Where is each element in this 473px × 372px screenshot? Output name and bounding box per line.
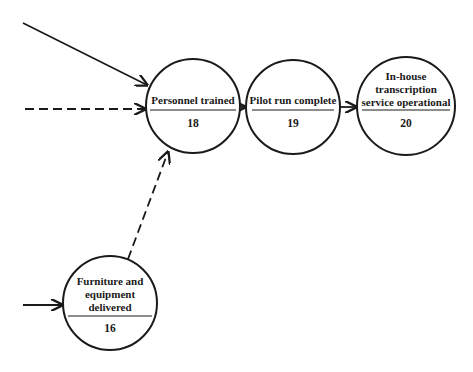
- node-furniture-equipment-delivered: Furniture and equipment delivered 16: [63, 256, 157, 350]
- node-label-line-1: Furniture and: [77, 275, 144, 287]
- node-number: 16: [104, 322, 116, 334]
- network-diagram: Personnel trained 18 Pilot run complete …: [0, 0, 473, 372]
- node-number: 20: [400, 117, 412, 129]
- node-personnel-trained: Personnel trained 18: [146, 59, 240, 153]
- node-pilot-run-complete: Pilot run complete 19: [246, 60, 340, 154]
- node-in-house-transcription-operational: In-house transcription service operation…: [357, 57, 455, 155]
- node-label-line-1: In-house: [386, 70, 427, 82]
- node-label: Pilot run complete: [250, 94, 337, 106]
- node-label-line-2: equipment: [85, 288, 135, 300]
- node-number: 18: [187, 117, 199, 129]
- node-label-line-3: delivered: [88, 301, 131, 313]
- edge-external-solid-to-18: [23, 23, 147, 85]
- node-label-line-2: transcription: [375, 83, 437, 95]
- edge-16-to-18-dashed: [128, 152, 168, 259]
- node-number: 19: [287, 117, 299, 129]
- node-label: Personnel trained: [151, 94, 234, 106]
- node-label-line-3: service operational: [362, 96, 451, 108]
